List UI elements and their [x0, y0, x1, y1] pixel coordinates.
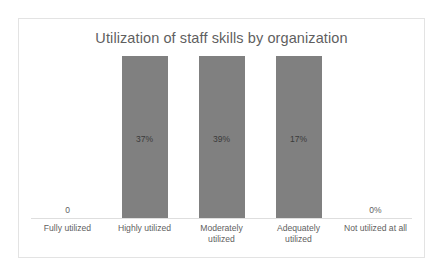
- category-label-not-utilized-at-all: Not utilized at all: [328, 223, 424, 234]
- plot-area: 0 Fully utilized 37% Highly utilized 39%…: [29, 41, 414, 257]
- bar-value-label: 0%: [369, 205, 381, 215]
- bar-value-label: 39%: [213, 134, 230, 144]
- bar-column-fully-utilized: 0 Fully utilized: [29, 41, 106, 257]
- bar-column-adequately-utilized: 17% Adequately utilized: [260, 41, 337, 257]
- chart-frame: Utilization of staff skills by organizat…: [18, 18, 425, 258]
- bar-column-highly-utilized: 37% Highly utilized: [106, 41, 183, 257]
- bar-value-label: 0: [65, 205, 70, 215]
- bar-value-label: 17%: [290, 134, 307, 144]
- category-label-line1: Not utilized at all: [328, 223, 424, 234]
- bar-column-moderately-utilized: 39% Moderately utilized: [183, 41, 260, 257]
- category-label-line2: utilized: [251, 234, 347, 245]
- bar-column-not-utilized-at-all: 0% Not utilized at all: [337, 41, 414, 257]
- bar-value-label: 37%: [136, 134, 153, 144]
- bar-columns: 0 Fully utilized 37% Highly utilized 39%…: [29, 41, 414, 257]
